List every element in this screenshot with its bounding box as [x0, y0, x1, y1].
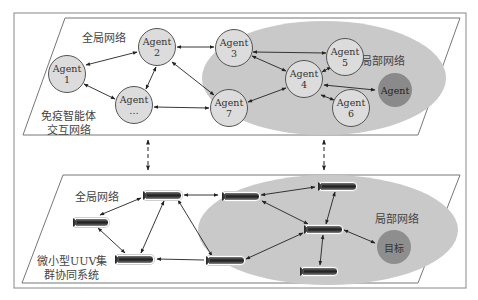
- target-agent-node: Agent: [378, 73, 412, 107]
- agent-node-ellipsis: Agent …: [115, 86, 153, 124]
- agent-node-3: Agent 3: [215, 29, 253, 67]
- agent-node-1: Agent 1: [48, 55, 86, 93]
- top-system-label-2: 交互网络: [47, 124, 91, 138]
- agent-number: 6: [348, 108, 354, 119]
- bottom-system-label-1: 微小型UUV集: [37, 255, 108, 269]
- agent-label: Agent: [120, 94, 149, 105]
- agent-number: 3: [231, 48, 237, 59]
- agent-node-2: Agent 2: [138, 28, 176, 66]
- agent-number: 5: [342, 57, 348, 68]
- bottom-local-network-label: 局部网络: [375, 213, 419, 227]
- uuv-icon: [75, 218, 109, 227]
- top-global-network-label: 全局网络: [82, 32, 126, 46]
- agent-node-6: Agent 6: [332, 89, 370, 127]
- agent-label: Agent: [143, 36, 172, 47]
- bottom-system-label-2: 群协同系统: [44, 269, 99, 283]
- uuv-icon: [302, 267, 338, 276]
- agent-label: Agent: [215, 97, 244, 108]
- agent-label: Agent: [381, 85, 410, 96]
- agent-number: 7: [226, 108, 232, 119]
- agent-number: …: [129, 105, 139, 116]
- top-system-label-1: 免疫智能体: [41, 110, 96, 124]
- agent-label: Agent: [290, 68, 319, 79]
- uuv-icon: [224, 192, 260, 201]
- agent-label: Agent: [331, 46, 360, 57]
- agent-node-4: Agent 4: [285, 60, 323, 98]
- agent-node-7: Agent 7: [210, 89, 248, 127]
- agent-label: Agent: [53, 63, 82, 74]
- uuv-icon: [208, 256, 245, 265]
- agent-node-5: Agent 5: [326, 38, 364, 76]
- uuv-icon: [320, 182, 357, 191]
- agent-label: Agent: [220, 37, 249, 48]
- agent-number: 1: [64, 74, 70, 85]
- bottom-global-network-label: 全局网络: [75, 191, 119, 205]
- agent-label: Agent: [337, 97, 366, 108]
- agent-number: 2: [154, 47, 160, 58]
- target-label: 目标: [384, 240, 404, 255]
- target-node: 目标: [377, 230, 411, 264]
- uuv-icon: [117, 255, 154, 264]
- top-local-network-label: 局部网络: [361, 55, 405, 69]
- uuv-icon: [306, 225, 343, 234]
- uuv-icon: [145, 191, 182, 200]
- agent-number: 4: [301, 79, 307, 90]
